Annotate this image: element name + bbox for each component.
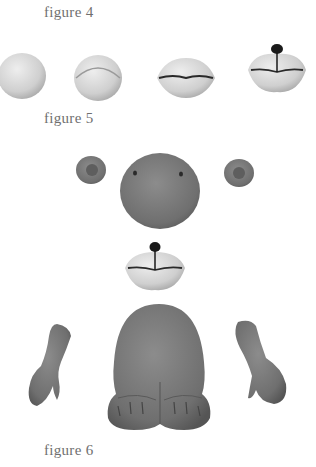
right-arm [230, 318, 290, 408]
muzzle [123, 240, 187, 292]
clay-ball-folded-step-2 [73, 52, 123, 102]
clay-ball-step-1 [0, 52, 48, 100]
clay-lips-step-3 [155, 52, 217, 100]
body-with-feet [104, 302, 214, 432]
clay-lips-with-nose-step-4 [246, 42, 308, 96]
left-arm [27, 322, 73, 410]
figure-4-caption: figure 4 [44, 4, 93, 21]
left-ear [75, 155, 107, 185]
figure-6-caption: figure 6 [44, 442, 93, 459]
right-ear [223, 158, 255, 188]
figure-5-caption: figure 5 [44, 110, 93, 127]
head-ball [119, 152, 201, 230]
